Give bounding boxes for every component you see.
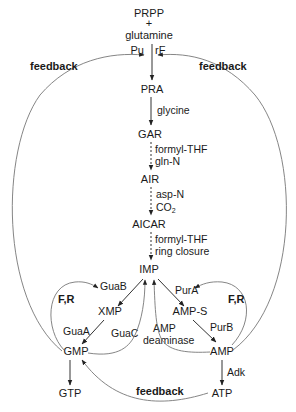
node-imp: IMP bbox=[139, 263, 159, 275]
node-gar: GAR bbox=[138, 128, 162, 140]
node-air: AIR bbox=[141, 173, 159, 185]
node-amp-s: AMP-S bbox=[173, 305, 208, 317]
enzyme-guac: GuaC bbox=[111, 327, 139, 339]
node-gmp: GMP bbox=[63, 345, 88, 357]
label-formyl-thf-1: formyl-THF bbox=[155, 143, 208, 155]
regulation-fr-right: F,R bbox=[228, 293, 245, 305]
enzyme-pura: PurA bbox=[175, 284, 198, 296]
plus-sign: + bbox=[146, 17, 152, 29]
enzyme-amp-deaminase-2: deaminase bbox=[143, 334, 195, 346]
regulation-fr-left: F,R bbox=[58, 293, 75, 305]
node-xmp: XMP bbox=[98, 305, 122, 317]
enzyme-guab: GuaB bbox=[100, 280, 127, 292]
node-aicar: AICAR bbox=[132, 218, 166, 230]
node-pra: PRA bbox=[141, 83, 164, 95]
purine-biosynthesis-diagram: PRPP + glutamine Pu rF PRA glycine GAR f… bbox=[0, 0, 296, 412]
regulation-feedback-right: feedback bbox=[199, 60, 248, 72]
regulation-feedback-left: feedback bbox=[30, 60, 79, 72]
node-gtp: GTP bbox=[59, 387, 82, 399]
feedback-arc-left bbox=[12, 54, 144, 351]
enzyme-adk: Adk bbox=[227, 366, 246, 378]
label-glycine: glycine bbox=[157, 104, 190, 116]
label-ring-closure: ring closure bbox=[155, 245, 209, 257]
enzyme-guaa: GuaA bbox=[63, 325, 90, 337]
enzyme-amp-deaminase-1: AMP bbox=[153, 322, 176, 334]
node-amp: AMP bbox=[210, 345, 234, 357]
label-gln-n: gln-N bbox=[155, 155, 180, 167]
label-formyl-thf-2: formyl-THF bbox=[155, 233, 208, 245]
label-asp-n: asp-N bbox=[156, 188, 184, 200]
enzyme-purb: PurB bbox=[210, 321, 233, 333]
node-atp: ATP bbox=[212, 387, 233, 399]
node-glutamine: glutamine bbox=[125, 29, 173, 41]
label-co2: CO2 bbox=[156, 201, 176, 214]
regulation-feedback-bottom: feedback bbox=[136, 385, 185, 397]
